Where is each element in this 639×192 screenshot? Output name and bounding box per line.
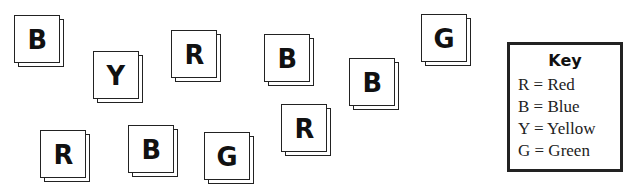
tile-letter: R	[294, 115, 314, 142]
key-entry-yellow: Y = Yellow	[518, 118, 595, 140]
tile-letter: B	[277, 45, 297, 72]
tile-face: Y	[93, 51, 139, 99]
tile-letter: B	[27, 26, 47, 53]
key-legend: Key R = Red B = Blue Y = Yellow G = Gree…	[507, 42, 623, 172]
tile-face: B	[14, 15, 60, 63]
key-title: Key	[510, 51, 620, 70]
tile-letter: B	[141, 136, 161, 163]
letter-tile: B	[14, 15, 64, 67]
tile-face: R	[171, 30, 217, 78]
key-list: R = Red B = Blue Y = Yellow G = Green	[518, 74, 595, 162]
tile-letter: G	[433, 25, 454, 52]
key-entry-green: G = Green	[518, 140, 595, 162]
letter-tile: Y	[93, 51, 143, 103]
key-entry-blue: B = Blue	[518, 96, 595, 118]
letter-tile: R	[171, 30, 221, 82]
letter-tile: B	[349, 58, 399, 110]
key-entry-red: R = Red	[518, 74, 595, 96]
tile-face: R	[281, 104, 327, 152]
tile-face: R	[40, 130, 86, 178]
tile-face: B	[128, 125, 174, 173]
tile-letter: G	[216, 143, 237, 170]
tile-letter: Y	[107, 62, 126, 89]
letter-tile: B	[128, 125, 178, 177]
letter-tile: G	[204, 132, 254, 184]
tile-letter: R	[53, 141, 73, 168]
tile-face: G	[421, 14, 467, 62]
letter-tile: G	[421, 14, 471, 66]
letter-tile: R	[40, 130, 90, 182]
tile-face: G	[204, 132, 250, 180]
letter-tile: R	[281, 104, 331, 156]
tiles-diagram: B Y R B B G R	[0, 0, 639, 192]
tile-face: B	[349, 58, 395, 106]
tile-face: B	[264, 34, 310, 82]
letter-tile: B	[264, 34, 314, 86]
tile-letter: B	[362, 69, 382, 96]
tile-letter: R	[184, 41, 204, 68]
